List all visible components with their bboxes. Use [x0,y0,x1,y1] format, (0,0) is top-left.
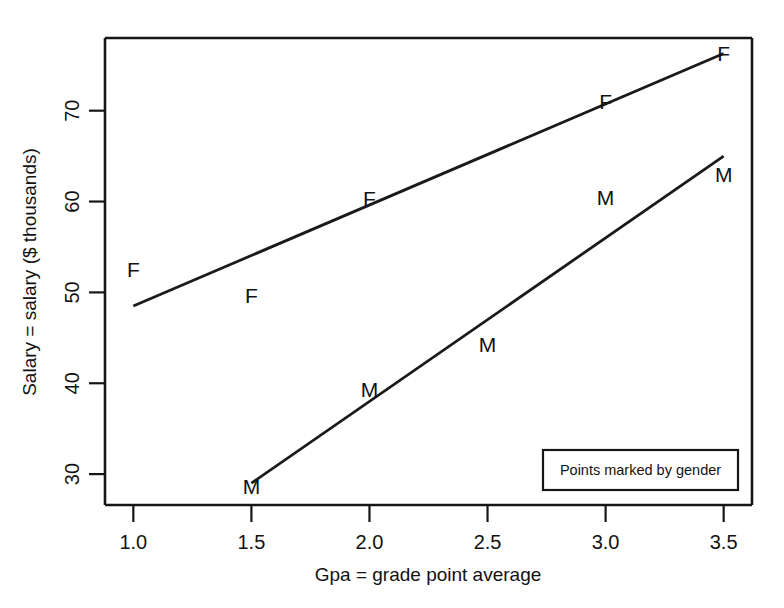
x-tick-label: 3.0 [592,531,620,553]
scatter-plot-canvas: 3040506070 1.01.52.02.53.03.5 FFFFFMMMMM… [0,0,784,608]
data-point-marker-m: M [597,186,615,209]
x-tick-label-group: 1.01.52.02.53.03.5 [119,531,737,553]
x-tick-label: 2.5 [474,531,502,553]
y-tick-label: 50 [61,281,83,303]
x-axis-ticks [133,505,723,522]
y-tick-label: 40 [61,372,83,394]
plot-frame [105,38,752,505]
x-axis-title: Gpa = grade point average [315,564,542,585]
data-point-marker-f: F [363,187,376,210]
y-axis-ticks [89,111,105,474]
legend-annotation: Points marked by gender [543,450,738,490]
y-tick-label: 70 [61,100,83,122]
x-tick-label: 1.0 [119,531,147,553]
regression-line-group [133,53,723,483]
regression-line-m [251,156,723,483]
x-tick-label: 3.5 [710,531,738,553]
regression-line-f [133,53,723,306]
data-point-marker-f: F [717,42,730,65]
data-point-marker-f: F [599,90,612,113]
data-point-marker-m: M [479,333,497,356]
x-tick-label: 1.5 [237,531,265,553]
legend-label: Points marked by gender [560,462,721,478]
y-tick-label: 30 [61,463,83,485]
x-tick-label: 2.0 [356,531,384,553]
data-point-marker-m: M [243,475,261,498]
data-point-marker-m: M [361,378,379,401]
data-point-marker-f: F [127,258,140,281]
y-tick-label-group: 3040506070 [61,100,83,486]
chart-figure: 3040506070 1.01.52.02.53.03.5 FFFFFMMMMM… [0,0,784,608]
y-axis-title: Salary = salary ($ thousands) [19,148,40,396]
data-point-marker-m: M [715,163,733,186]
y-tick-label: 60 [61,190,83,212]
data-point-marker-f: F [245,284,258,307]
